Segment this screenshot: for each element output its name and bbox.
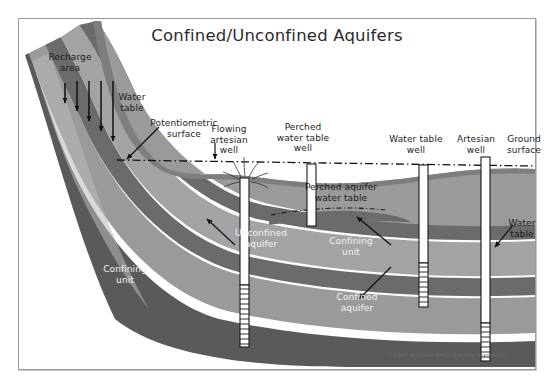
label-ground-surface: Ground surface xyxy=(500,134,548,155)
label-water-table-well: Water table well xyxy=(382,134,450,155)
label-water-table-left: Water table xyxy=(110,92,154,113)
label-recharge-area: Recharge area xyxy=(38,52,102,73)
well-water-table[interactable] xyxy=(419,165,428,307)
artesian-well-casing xyxy=(481,157,490,323)
aquifer-diagram-figure: Confined/Unconfined Aquifers xyxy=(0,0,556,390)
label-water-table-right: Water table xyxy=(500,218,544,239)
copyright-notice: ©2007 National Ground Water Association xyxy=(388,352,509,358)
water-table-well-screen xyxy=(419,263,428,307)
label-perched-water-table-well: Perched water table well xyxy=(272,122,334,154)
label-confining-unit-left: Confining unit xyxy=(96,264,154,285)
label-confining-unit-center: Confining unit xyxy=(322,236,380,257)
label-flowing-artesian-well: Flowing artesian well xyxy=(202,124,256,156)
label-perched-aquifer-water-table: Perched aquifer water table xyxy=(298,182,384,203)
label-unconfined-aquifer: Unconfined aquifer xyxy=(226,228,296,249)
well-artesian[interactable] xyxy=(481,157,490,361)
water-table-well-casing xyxy=(419,165,428,263)
label-artesian-well: Artesian well xyxy=(452,134,500,155)
label-confined-aquifer: Confined aquifer xyxy=(326,292,388,313)
